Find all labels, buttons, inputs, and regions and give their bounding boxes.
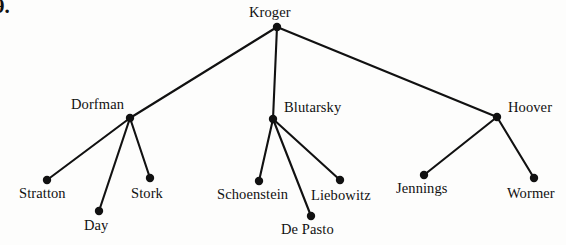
tree-node-label-stork: Stork bbox=[131, 186, 163, 201]
tree-edge-dorfman-to-day bbox=[99, 118, 130, 211]
tree-graphic bbox=[0, 0, 566, 245]
tree-edge-kroger-to-dorfman bbox=[130, 27, 277, 118]
tree-edge-hoover-to-wormer bbox=[497, 117, 534, 178]
tree-edge-blutarsky-to-liebowitz bbox=[273, 119, 340, 180]
tree-node-wormer[interactable] bbox=[530, 174, 538, 182]
tree-node-label-kroger: Kroger bbox=[249, 5, 291, 20]
tree-node-liebowitz[interactable] bbox=[336, 176, 344, 184]
tree-node-jennings[interactable] bbox=[420, 171, 428, 179]
tree-edge-dorfman-to-stratton bbox=[47, 118, 130, 180]
tree-edge-dorfman-to-stork bbox=[130, 118, 150, 178]
tree-node-label-jennings: Jennings bbox=[396, 181, 448, 196]
tree-node-label-blutarsky: Blutarsky bbox=[284, 100, 341, 115]
tree-edge-kroger-to-blutarsky bbox=[273, 27, 277, 119]
tree-node-label-day: Day bbox=[84, 218, 108, 233]
tree-node-label-de-pasto: De Pasto bbox=[281, 222, 334, 237]
tree-node-dorfman[interactable] bbox=[126, 114, 134, 122]
tree-node-hoover[interactable] bbox=[493, 113, 501, 121]
tree-node-label-wormer: Wormer bbox=[507, 186, 555, 201]
tree-node-label-dorfman: Dorfman bbox=[71, 97, 124, 112]
tree-node-blutarsky[interactable] bbox=[269, 115, 277, 123]
tree-node-label-schoenstein: Schoenstein bbox=[217, 187, 288, 202]
tree-node-stork[interactable] bbox=[146, 174, 154, 182]
tree-node-day[interactable] bbox=[95, 207, 103, 215]
tree-node-schoenstein[interactable] bbox=[255, 177, 263, 185]
tree-edge-blutarsky-to-schoenstein bbox=[259, 119, 273, 181]
tree-node-stratton[interactable] bbox=[43, 176, 51, 184]
tree-node-label-hoover: Hoover bbox=[508, 100, 552, 115]
edge-layer bbox=[47, 27, 534, 216]
tree-node-label-stratton: Stratton bbox=[19, 186, 66, 201]
tree-diagram-figure: 9. KrogerDorfmanBlutarskyHooverStrattonD… bbox=[0, 0, 566, 245]
node-layer bbox=[43, 23, 538, 220]
tree-edge-hoover-to-jennings bbox=[424, 117, 497, 175]
tree-node-label-liebowitz: Liebowitz bbox=[311, 188, 371, 203]
tree-node-kroger[interactable] bbox=[273, 23, 281, 31]
tree-node-de-pasto[interactable] bbox=[307, 212, 315, 220]
